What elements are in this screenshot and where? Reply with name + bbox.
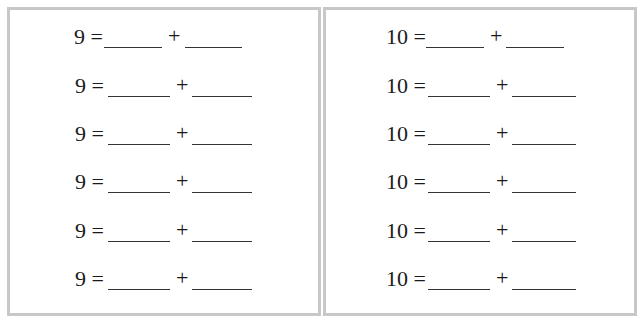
addend-blank-2[interactable] xyxy=(512,289,576,290)
total-value: 9 xyxy=(74,24,85,49)
equation-total: 9 = xyxy=(75,123,104,145)
equation-row: 10 =+ xyxy=(326,266,634,296)
plus-sign: + xyxy=(496,122,508,144)
addend-blank-1[interactable] xyxy=(108,241,170,242)
equals-sign: = xyxy=(414,121,426,146)
addend-blank-1[interactable] xyxy=(428,96,490,97)
equation-row: 10 =+ xyxy=(326,73,634,103)
addend-blank-1[interactable] xyxy=(108,192,170,193)
equation-row: 10 =+ xyxy=(326,24,634,54)
equals-sign: = xyxy=(414,24,426,49)
total-value: 9 xyxy=(75,218,86,243)
total-value: 9 xyxy=(75,73,86,98)
addend-blank-2[interactable] xyxy=(512,96,576,97)
equation-total: 9 = xyxy=(75,220,104,242)
equals-sign: = xyxy=(414,266,426,291)
addend-blank-2[interactable] xyxy=(506,47,564,48)
addend-blank-1[interactable] xyxy=(426,47,484,48)
equation-row: 9 =+ xyxy=(10,24,318,54)
addend-blank-1[interactable] xyxy=(428,289,490,290)
total-value: 9 xyxy=(75,169,86,194)
equation-total: 9 = xyxy=(74,26,103,48)
total-value: 10 xyxy=(386,121,408,146)
equation-total: 10 = xyxy=(386,123,426,145)
addend-blank-2[interactable] xyxy=(192,144,252,145)
plus-sign: + xyxy=(496,219,508,241)
plus-sign: + xyxy=(168,25,180,47)
equation-row: 9 =+ xyxy=(10,121,318,151)
total-value: 10 xyxy=(386,73,408,98)
equation-row: 9 =+ xyxy=(10,169,318,199)
total-value: 10 xyxy=(386,218,408,243)
equation-total: 9 = xyxy=(75,171,104,193)
equals-sign: = xyxy=(91,24,103,49)
addend-blank-2[interactable] xyxy=(192,289,252,290)
equals-sign: = xyxy=(92,73,104,98)
equation-row: 10 =+ xyxy=(326,218,634,248)
addend-blank-1[interactable] xyxy=(108,144,170,145)
equation-total: 9 = xyxy=(75,75,104,97)
plus-sign: + xyxy=(176,267,188,289)
equals-sign: = xyxy=(414,73,426,98)
equals-sign: = xyxy=(92,169,104,194)
equation-total: 10 = xyxy=(386,26,426,48)
equation-row: 9 =+ xyxy=(10,73,318,103)
equation-row: 9 =+ xyxy=(10,218,318,248)
equation-total: 10 = xyxy=(386,220,426,242)
plus-sign: + xyxy=(176,170,188,192)
equals-sign: = xyxy=(92,218,104,243)
plus-sign: + xyxy=(176,74,188,96)
equation-total: 10 = xyxy=(386,171,426,193)
addend-blank-1[interactable] xyxy=(428,144,490,145)
equation-row: 10 =+ xyxy=(326,121,634,151)
equation-total: 9 = xyxy=(75,268,104,290)
total-value: 10 xyxy=(386,24,408,49)
addend-blank-2[interactable] xyxy=(192,241,252,242)
addend-blank-1[interactable] xyxy=(428,241,490,242)
total-value: 10 xyxy=(386,266,408,291)
plus-sign: + xyxy=(496,267,508,289)
equation-total: 10 = xyxy=(386,268,426,290)
equation-row: 9 =+ xyxy=(10,266,318,296)
equation-total: 10 = xyxy=(386,75,426,97)
total-value: 9 xyxy=(75,266,86,291)
addend-blank-1[interactable] xyxy=(428,192,490,193)
equals-sign: = xyxy=(92,266,104,291)
addend-blank-2[interactable] xyxy=(512,192,576,193)
total-value: 10 xyxy=(386,169,408,194)
plus-sign: + xyxy=(176,122,188,144)
plus-sign: + xyxy=(496,170,508,192)
total-value: 9 xyxy=(75,121,86,146)
right-panel: 10 =+10 =+10 =+10 =+10 =+10 =+ xyxy=(323,7,637,316)
equals-sign: = xyxy=(92,121,104,146)
addend-blank-2[interactable] xyxy=(512,144,576,145)
equals-sign: = xyxy=(414,169,426,194)
addend-blank-2[interactable] xyxy=(185,47,242,48)
addend-blank-1[interactable] xyxy=(108,289,170,290)
addend-blank-1[interactable] xyxy=(104,47,162,48)
plus-sign: + xyxy=(176,219,188,241)
addend-blank-2[interactable] xyxy=(192,96,252,97)
plus-sign: + xyxy=(490,25,502,47)
addend-blank-2[interactable] xyxy=(192,192,252,193)
plus-sign: + xyxy=(496,74,508,96)
equation-row: 10 =+ xyxy=(326,169,634,199)
addend-blank-2[interactable] xyxy=(512,241,576,242)
equals-sign: = xyxy=(414,218,426,243)
addend-blank-1[interactable] xyxy=(108,96,170,97)
left-panel: 9 =+9 =+9 =+9 =+9 =+9 =+ xyxy=(7,7,321,316)
